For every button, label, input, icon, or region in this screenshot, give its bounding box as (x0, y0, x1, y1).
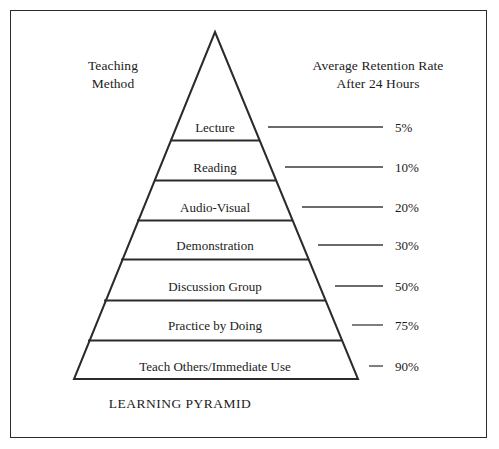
retention-value-demonstration: 30% (395, 239, 419, 252)
retention-value-audio-visual: 20% (395, 201, 419, 214)
tier-label-lecture: Lecture (195, 121, 235, 134)
retention-value-teach-others: 90% (395, 360, 419, 373)
retention-value-reading: 10% (395, 161, 419, 174)
tier-label-audio-visual: Audio-Visual (180, 201, 250, 214)
figure-caption: LEARNING PYRAMID (10, 396, 350, 412)
column-header-retention-rate: Average Retention Rate After 24 Hours (288, 57, 468, 93)
tier-label-practice-by-doing: Practice by Doing (168, 319, 262, 332)
retention-value-lecture: 5% (395, 121, 412, 134)
retention-value-discussion-group: 50% (395, 280, 419, 293)
tier-label-teach-others: Teach Others/Immediate Use (139, 360, 290, 373)
tier-label-discussion-group: Discussion Group (168, 280, 262, 293)
column-header-teaching-method: Teaching Method (48, 57, 178, 93)
tier-label-demonstration: Demonstration (176, 239, 253, 252)
retention-value-practice-by-doing: 75% (395, 319, 419, 332)
tier-label-reading: Reading (193, 161, 236, 174)
learning-pyramid-figure: Teaching Method Average Retention Rate A… (0, 0, 499, 449)
